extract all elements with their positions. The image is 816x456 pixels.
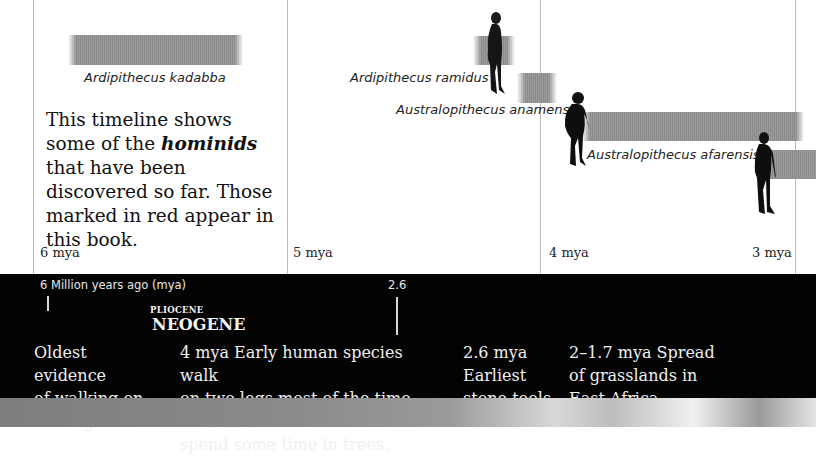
decorative-texture-strip (0, 398, 816, 427)
scale-start-marker (47, 296, 49, 311)
tick-label-5mya: 5 mya (293, 245, 333, 260)
tick-label-3mya: 3 mya (752, 245, 792, 260)
event-line: 2–1.7 mya Spread (569, 341, 749, 364)
intro-text: This timeline shows some of the hominids… (46, 108, 282, 252)
scale-marker-label: 2.6 (388, 278, 406, 292)
event-line: 4 mya Early human species walk (180, 341, 440, 387)
species-label-kadabba: Ardipithecus kadabba (84, 70, 226, 85)
species-label-anamensis: Australopithecus anamensis (396, 102, 580, 117)
event-line: Oldest evidence (34, 341, 159, 387)
afarensis-figure-icon (751, 132, 777, 216)
intro-text-after: that have been discovered so far. Those … (46, 157, 274, 250)
gridline-6mya (33, 0, 34, 274)
tick-label-4mya: 4 mya (549, 245, 589, 260)
event-line: 2.6 mya (463, 341, 563, 364)
event-line: of grasslands in (569, 364, 749, 387)
anamensis-figure-icon (562, 92, 590, 168)
geologic-band: 6 Million years ago (mya) 2.6 PLIOCENE N… (0, 274, 816, 398)
gridline-4mya (540, 0, 541, 274)
range-bar-australopithecus-anamensis (517, 73, 557, 103)
species-label-ramidus: Ardipithecus ramidus (350, 70, 488, 85)
scale-marker-line (396, 297, 398, 335)
tick-label-6mya: 6 mya (40, 245, 80, 260)
species-label-afarensis: Australopithecus afarensis (587, 147, 760, 162)
event-line: Earliest (463, 364, 563, 387)
hominid-timeline: Ardipithecus kadabba Ardipithecus ramidu… (0, 0, 816, 274)
range-bar-ardipithecus-kadabba (68, 35, 243, 65)
scale-start-label: 6 Million years ago (mya) (40, 278, 186, 292)
period-label: NEOGENE (152, 315, 245, 334)
gridline-5mya (287, 0, 288, 274)
epoch-label: PLIOCENE (150, 305, 204, 315)
intro-text-emphasis: hominids (161, 133, 257, 154)
event-line: spend some time in trees. (180, 433, 440, 456)
ramidus-figure-icon (483, 12, 507, 96)
